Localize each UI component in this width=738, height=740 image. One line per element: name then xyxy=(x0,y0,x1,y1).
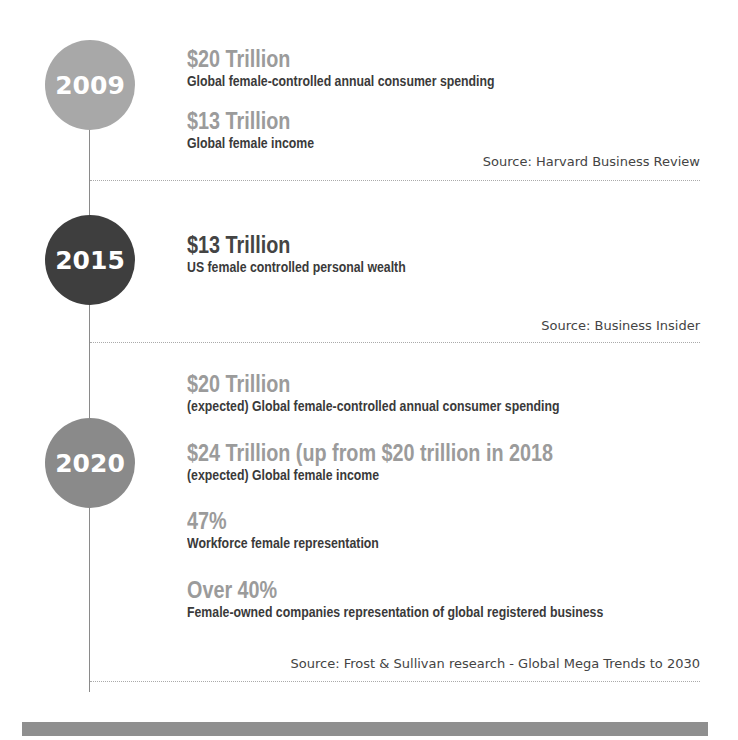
year-label: 2015 xyxy=(55,246,125,275)
stat-value: $13 Trillion xyxy=(187,108,320,134)
stat-description: (expected) Global female-controlled annu… xyxy=(187,397,559,415)
section-divider xyxy=(90,681,700,682)
stat-value: $13 Trillion xyxy=(187,232,416,258)
year-circle-2009: 2009 xyxy=(45,40,135,130)
stat-value: $20 Trillion xyxy=(187,371,578,397)
source-2009: Source: Harvard Business Review xyxy=(483,154,700,169)
stat-2020-consumer-spending: $20 Trillion (expected) Global female-co… xyxy=(187,371,641,415)
bottom-bar xyxy=(22,722,708,736)
stat-description: Global female income xyxy=(187,134,314,152)
stat-2009-female-income: $13 Trillion Global female income xyxy=(187,108,342,152)
stat-description: Global female-controlled annual consumer… xyxy=(187,72,495,90)
stat-description: Female-owned companies representation of… xyxy=(187,603,603,621)
stat-description: Workforce female representation xyxy=(187,534,379,552)
stat-value: Over 40% xyxy=(187,577,624,603)
stat-2020-female-owned-companies: Over 40% Female-owned companies represen… xyxy=(187,577,695,621)
stat-value: $20 Trillion xyxy=(187,46,510,72)
timeline-line xyxy=(89,120,90,692)
source-2015: Source: Business Insider xyxy=(541,318,700,333)
stat-description: (expected) Global female income xyxy=(187,466,536,484)
year-circle-2020: 2020 xyxy=(45,418,135,508)
stat-2020-female-income: $24 Trillion (up from $20 trillion in 20… xyxy=(187,440,613,484)
source-2020: Source: Frost & Sullivan research - Glob… xyxy=(291,656,700,671)
year-label: 2020 xyxy=(55,449,125,478)
section-divider xyxy=(90,180,700,181)
year-circle-2015: 2015 xyxy=(45,215,135,305)
stat-2009-consumer-spending: $20 Trillion Global female-controlled an… xyxy=(187,46,562,90)
stat-2020-workforce: 47% Workforce female representation xyxy=(187,508,421,552)
stat-value: 47% xyxy=(187,508,388,534)
year-label: 2009 xyxy=(55,71,125,100)
stat-value: $24 Trillion (up from $20 trillion in 20… xyxy=(187,440,553,466)
section-divider xyxy=(90,342,700,343)
stat-2015-personal-wealth: $13 Trillion US female controlled person… xyxy=(187,232,454,276)
stat-description: US female controlled personal wealth xyxy=(187,258,406,276)
